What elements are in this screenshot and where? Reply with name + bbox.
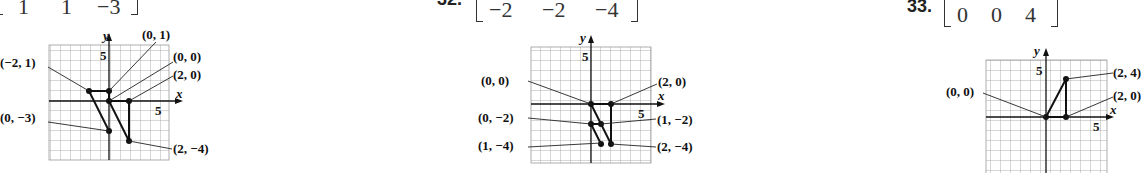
point-label: (0, 0) bbox=[173, 49, 201, 65]
y-tick-label: 5 bbox=[1036, 63, 1043, 79]
point-label: (2, −4) bbox=[173, 141, 209, 157]
point-label: (1, −4) bbox=[478, 138, 514, 154]
graph-31 bbox=[48, 33, 183, 160]
point-label: (0, 0) bbox=[946, 84, 974, 100]
x-axis-label: x bbox=[1110, 102, 1117, 118]
point-label: (0, −2) bbox=[478, 110, 514, 126]
point-label: (2, −4) bbox=[657, 139, 693, 155]
y-axis-label: y bbox=[580, 30, 586, 46]
y-axis-label: y bbox=[103, 28, 109, 44]
y-tick-label: 5 bbox=[582, 49, 589, 65]
point-label: (2, 0) bbox=[1113, 88, 1141, 104]
point-label: (0, 0) bbox=[481, 73, 509, 89]
x-tick-label: 5 bbox=[1093, 119, 1100, 135]
y-tick-label: 5 bbox=[100, 48, 107, 64]
y-axis-arrow-icon bbox=[588, 35, 594, 43]
point-label: (2, 0) bbox=[173, 67, 201, 83]
x-axis-label: x bbox=[176, 86, 183, 102]
graph-32 bbox=[528, 35, 665, 163]
point-label: (0, −3) bbox=[0, 110, 36, 126]
graph-33 bbox=[983, 48, 1114, 173]
point-label: (2, 0) bbox=[658, 74, 686, 90]
point-label: (2, 4) bbox=[1113, 65, 1141, 81]
y-axis-label: y bbox=[1034, 43, 1040, 59]
y-axis-arrow-icon bbox=[1043, 48, 1049, 56]
x-axis-label: x bbox=[658, 88, 665, 104]
point-label: (0, 1) bbox=[142, 27, 170, 43]
point-label: (1, −2) bbox=[657, 112, 693, 128]
x-tick-label: 5 bbox=[155, 103, 162, 119]
point-label: (−2, 1) bbox=[0, 55, 36, 71]
x-tick-label: 5 bbox=[638, 106, 645, 122]
